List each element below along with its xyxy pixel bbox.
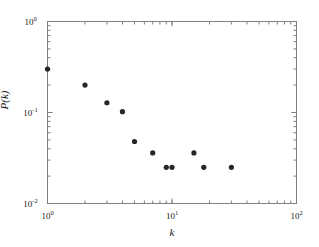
data-point — [120, 109, 125, 114]
y-tick-label-0-1: 10-1 — [23, 108, 37, 118]
y-tick-label-1: 100 — [24, 17, 36, 27]
data-point — [201, 165, 206, 170]
data-point — [164, 165, 169, 170]
data-point — [169, 165, 174, 170]
data-point — [150, 150, 155, 155]
y-axis-label: P(k) — [0, 78, 10, 122]
data-point — [82, 83, 87, 88]
data-point — [229, 165, 234, 170]
y-tick-label-0-01: 10-2 — [23, 199, 37, 209]
x-axis-label: k — [170, 226, 175, 238]
degree-distribution-figure: P(k) k 100 101 102 100 10-1 10-2 — [0, 0, 319, 247]
x-tick-label-10: 101 — [166, 211, 178, 221]
x-tick-label-100: 102 — [290, 211, 302, 221]
data-point — [104, 100, 109, 105]
x-tick-label-1: 100 — [41, 211, 53, 221]
data-point — [191, 150, 196, 155]
data-point — [132, 139, 137, 144]
plot-frame — [48, 22, 297, 204]
data-point — [45, 66, 50, 71]
